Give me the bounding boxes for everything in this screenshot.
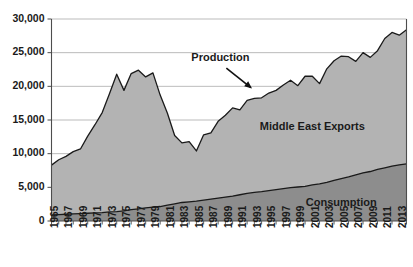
chart-container: 05,00010,00015,00020,00025,00030,000 196… xyxy=(0,0,413,267)
x-axis-tick-label: 1987 xyxy=(208,205,219,228)
x-axis-tick-label: 1991 xyxy=(237,205,248,228)
x-axis-tick-label: 1989 xyxy=(223,205,234,228)
x-axis-tick-label: 1999 xyxy=(295,205,306,228)
x-axis-tick-label: 2013 xyxy=(397,205,408,228)
x-axis-tick-label: 1985 xyxy=(194,205,205,228)
x-axis-tick-label: 1973 xyxy=(107,205,118,228)
production-annotation-label: Production xyxy=(191,51,249,63)
x-axis-tick-label: 1975 xyxy=(121,205,132,228)
x-axis-tick-label: 1971 xyxy=(92,205,103,228)
x-axis-tick-label: 1977 xyxy=(136,205,147,228)
x-axis-tick-label: 2009 xyxy=(368,205,379,228)
y-axis-tick-label: 15,000 xyxy=(12,113,44,125)
x-axis-tick-label: 2005 xyxy=(339,205,350,228)
y-axis-tick-label: 30,000 xyxy=(12,12,44,24)
x-axis-tick-label: 1993 xyxy=(252,205,263,228)
x-axis-tick-label: 1981 xyxy=(165,205,176,228)
x-axis-tick-label: 1983 xyxy=(179,205,190,228)
x-axis-tick-label: 1965 xyxy=(49,205,60,228)
x-axis-tick-label: 1997 xyxy=(281,205,292,228)
x-axis-tick-label: 2003 xyxy=(324,205,335,228)
x-axis-tick-label: 1969 xyxy=(78,205,89,228)
x-axis-labels-group: 1965196719691971197319751977197919811983… xyxy=(49,205,408,228)
consumption-label: Consumption xyxy=(306,196,377,208)
y-axis-tick-label: 5,000 xyxy=(18,180,44,192)
y-axis-tick-label: 0 xyxy=(39,214,45,226)
middle-east-exports-label: Middle East Exports xyxy=(260,120,365,132)
x-axis-tick-label: 2001 xyxy=(310,205,321,228)
x-axis-tick-label: 1995 xyxy=(266,205,277,228)
y-axis-tick-label: 10,000 xyxy=(12,146,44,158)
x-axis-tick-label: 1967 xyxy=(63,205,74,228)
area-chart: 05,00010,00015,00020,00025,00030,000 196… xyxy=(0,0,413,267)
x-axis-tick-label: 2011 xyxy=(382,206,393,228)
x-axis-tick-label: 2007 xyxy=(353,205,364,228)
y-axis-tick-label: 20,000 xyxy=(12,79,44,91)
x-axis-tick-label: 1979 xyxy=(150,205,161,228)
y-axis-tick-label: 25,000 xyxy=(12,45,44,57)
